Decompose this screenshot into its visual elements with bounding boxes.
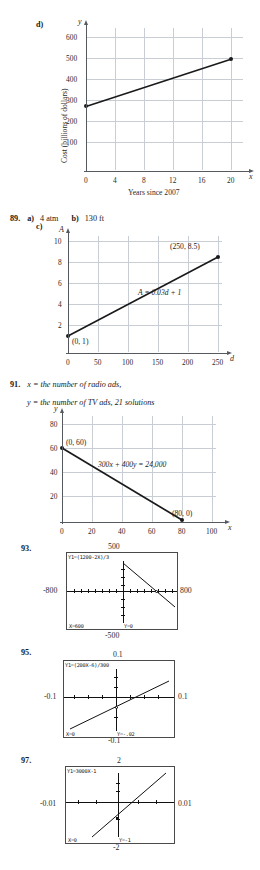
problem-number-97: 97.: [21, 756, 31, 765]
data-point: [216, 255, 220, 259]
calc-93-equation: Y1=(1200-2X)/3: [68, 554, 109, 560]
calc-97-trace-x: X=0: [68, 837, 77, 843]
x-tick-label: 12: [169, 176, 176, 185]
calc-97-trace-cursor: [116, 817, 119, 820]
y-axis-arrow-icon: [66, 228, 70, 233]
point-label: (250, 8.5): [170, 242, 200, 251]
x-tick-label: 8: [142, 176, 146, 185]
calc-95-equation: Y1=(200X-6)/300: [65, 662, 109, 668]
x-tick-label: 40: [118, 527, 125, 536]
y-tick-label: 600: [66, 33, 77, 42]
y-tick-label: 2: [58, 321, 62, 330]
y-axis-91: [62, 413, 63, 524]
figure-93: 93. 500 -800 800 -500 Y1=(1200-: [0, 540, 260, 645]
calc-95-ymax-label: 0.1: [113, 650, 123, 659]
x-tick-label: 100: [122, 358, 133, 367]
calc-97-xmax-label: 0.01: [178, 799, 192, 808]
y-axis-arrow-icon: [84, 20, 88, 25]
problem-number-93: 93.: [21, 544, 31, 553]
calc-97-xmin-label: -0.01: [40, 799, 56, 808]
calc-93-trace-cursor: [155, 590, 158, 593]
calc-93-xmax-label: 800: [180, 586, 192, 595]
calc-93-trace-x: X=600: [69, 623, 84, 629]
y-tick-label: 500: [66, 54, 77, 63]
point-label: (0, 1): [72, 337, 88, 346]
plot-area-89d: [86, 28, 246, 170]
x-tick-label: 50: [94, 358, 101, 367]
y-axis-89d: [86, 25, 87, 172]
problem-number-91: 91.: [10, 380, 20, 389]
calc-97-trace-y: Y=-1: [119, 837, 131, 843]
y-axis-name-91: y: [54, 404, 58, 413]
x-tick-label: 16: [198, 176, 205, 185]
calc-97-ymin-label: -2: [113, 843, 120, 852]
x-tick-label: 150: [152, 358, 163, 367]
calc-95-trace-x: X=0: [66, 731, 75, 737]
x-axis-89d: [84, 171, 250, 172]
calc-95-xmax-label: 0.1: [178, 692, 188, 701]
calc-97-ymax-label: 2: [117, 756, 121, 765]
y-axis-name-89d: y: [78, 17, 82, 26]
calc-93-ymin-label: -500: [105, 631, 119, 640]
equation-annotation-91: 300x + 400y = 24,000: [98, 460, 166, 469]
x-tick-label: 80: [178, 527, 185, 536]
y-axis-arrow-icon: [60, 408, 64, 413]
x-tick-label: 0: [84, 176, 88, 185]
point-label: (0, 60): [66, 438, 86, 447]
y-tick-label: 80: [50, 420, 57, 429]
y-tick-label: 400: [66, 75, 77, 84]
plot-area-91: [62, 416, 218, 522]
y-tick-label: 8: [58, 258, 62, 267]
calc-95-trace-y: Y=-.02: [117, 731, 135, 737]
calc-95-graph-line: [64, 661, 175, 738]
y-axis-89c: [68, 233, 69, 354]
equation-annotation-91-text: 300x + 400y = 24,000: [98, 460, 166, 469]
x-tick-label: 100: [206, 527, 217, 536]
figure-89c-part-label: c): [36, 222, 42, 231]
y-tick-label: 40: [50, 468, 57, 477]
calc-97-equation: Y1=3000X-1: [67, 768, 96, 774]
calc-95-trace-cursor: [115, 706, 118, 709]
calc-93-screen[interactable]: Y1=(1200-2X)/3 X=600 Y=0: [66, 552, 178, 630]
figure-95: 95. 0.1 -0.1 0.1 -0.1 Y1=(200X-6)/300 X=…: [0, 648, 260, 753]
equation-annotation-89c: A = 0.03d + 1: [138, 288, 181, 297]
figure-89d-part-label: d): [36, 20, 43, 29]
x-axis-title-89d: Years since 2007: [128, 188, 180, 197]
x-tick-label: 200: [182, 358, 193, 367]
calc-93-ymax-label: 500: [108, 542, 120, 551]
calc-93-xmin-label: -800: [43, 586, 57, 595]
figure-97: 97. 2 -0.01 0.01 -2 Y1=3000X-1 X=0 Y=-1: [0, 756, 260, 861]
figure-89c: c) A d 10 8 6 4 2 0 50 100 150 200 250 (…: [0, 222, 260, 377]
answer-91-line1: x = the number of radio ads,: [27, 380, 121, 389]
x-axis-name-91: x: [228, 523, 232, 532]
x-tick-label: 250: [212, 358, 223, 367]
data-line-89d: [86, 28, 246, 170]
y-axis-title-89d: Cost (billions of dollars): [60, 89, 69, 163]
calc-93-graph-line: [67, 553, 178, 630]
y-tick-label: 10: [54, 237, 61, 246]
x-axis-91: [60, 522, 226, 523]
problem-number-95: 95.: [21, 648, 31, 657]
figure-91: y x 80 60 40 20 0 20 40 60 80 100 (0, 60…: [0, 398, 260, 538]
calc-97-screen[interactable]: Y1=3000X-1 X=0 Y=-1: [65, 766, 175, 844]
x-tick-label: 20: [227, 176, 234, 185]
calc-95-screen[interactable]: Y1=(200X-6)/300 X=0 Y=-.02: [63, 660, 175, 738]
x-axis-name-89c: d: [230, 354, 234, 363]
x-tick-label: 0: [60, 527, 64, 536]
data-line-91: [62, 416, 218, 522]
y-axis-name-89c: A: [59, 225, 64, 234]
x-tick-label: 4: [113, 176, 117, 185]
y-tick-label: 4: [58, 300, 62, 309]
point-label: (80, 0): [172, 509, 192, 518]
x-tick-label: 60: [148, 527, 155, 536]
calc-97-graph-line: [66, 767, 175, 844]
y-tick-label: 60: [50, 444, 57, 453]
calc-93-trace-y: Y=0: [124, 623, 133, 629]
figure-89d: d) y x 600 500 400 300 200 100 0 4 8 12: [0, 0, 260, 200]
x-axis-name-89d: x: [249, 172, 253, 181]
x-axis-89c: [66, 353, 228, 354]
y-tick-label: 6: [58, 279, 62, 288]
calc-95-xmin-label: -0.1: [44, 692, 56, 701]
y-tick-label: 20: [50, 492, 57, 501]
x-tick-label: 0: [66, 358, 70, 367]
